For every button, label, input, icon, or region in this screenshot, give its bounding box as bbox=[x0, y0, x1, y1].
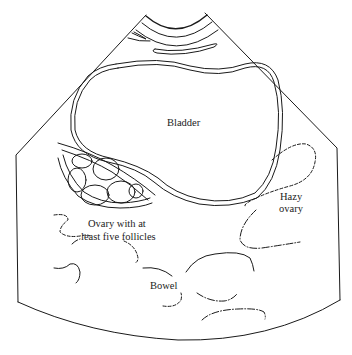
hazy-ovary-label-line1: Hazy bbox=[280, 191, 303, 202]
abdominal-wall-layers bbox=[128, 22, 218, 54]
left-ovary bbox=[58, 143, 155, 208]
ovary-label-line1: Ovary with at bbox=[88, 218, 146, 229]
follicle bbox=[129, 184, 143, 198]
follicle bbox=[72, 154, 92, 168]
follicle bbox=[81, 185, 109, 205]
follicle bbox=[107, 181, 135, 203]
bowel-label: Bowel bbox=[150, 280, 177, 291]
follicle bbox=[68, 168, 86, 192]
ovary-label-line2: least five follicles bbox=[81, 231, 156, 242]
hazy-ovary-label-line2: ovary bbox=[279, 203, 304, 214]
transducer-arc bbox=[146, 15, 207, 29]
bladder bbox=[71, 60, 283, 205]
ultrasound-diagram: Bladder Ovary with at least five follicl… bbox=[0, 0, 352, 355]
bladder-label: Bladder bbox=[167, 117, 201, 128]
